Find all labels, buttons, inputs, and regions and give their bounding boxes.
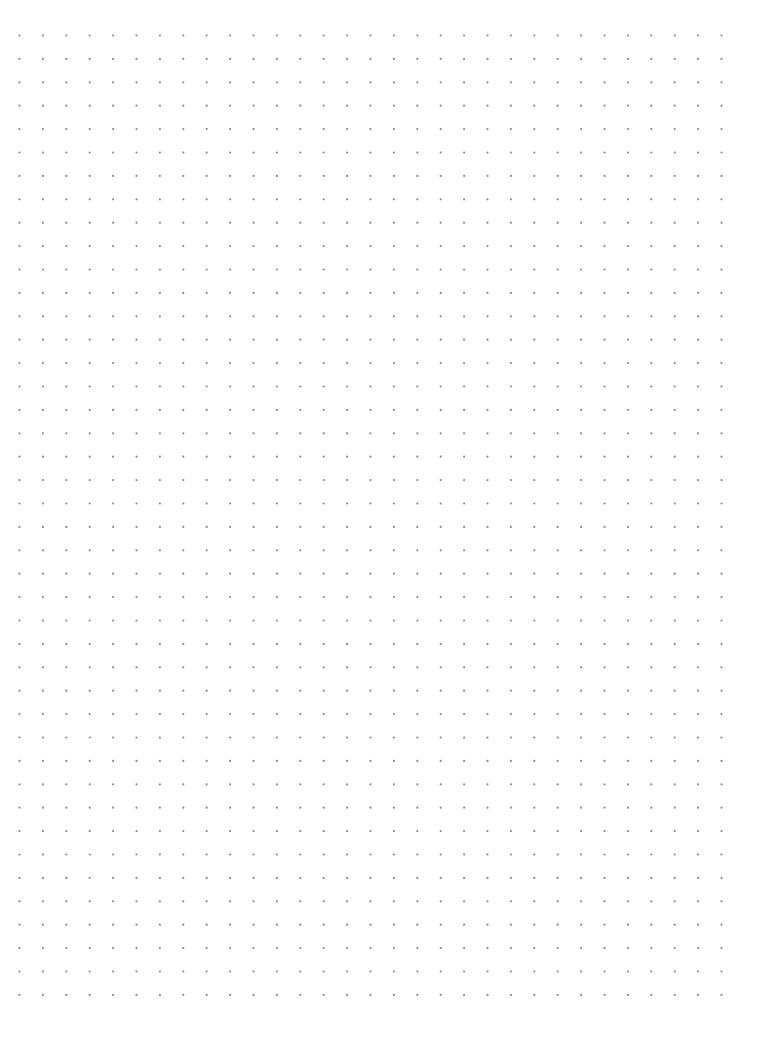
grid-dot bbox=[720, 151, 722, 153]
grid-dot bbox=[182, 643, 184, 645]
grid-dot bbox=[65, 128, 67, 130]
grid-dot bbox=[276, 619, 278, 621]
grid-dot bbox=[323, 362, 325, 364]
grid-dot bbox=[206, 339, 208, 341]
grid-dot bbox=[323, 573, 325, 575]
grid-dot bbox=[650, 292, 652, 294]
grid-dot bbox=[299, 151, 301, 153]
grid-dot bbox=[42, 549, 44, 551]
grid-dot bbox=[486, 900, 488, 902]
grid-dot bbox=[627, 198, 629, 200]
grid-dot bbox=[603, 526, 605, 528]
grid-dot bbox=[603, 58, 605, 60]
grid-dot bbox=[674, 385, 676, 387]
grid-dot bbox=[393, 409, 395, 411]
grid-dot bbox=[159, 222, 161, 224]
grid-dot bbox=[112, 128, 114, 130]
grid-dot bbox=[440, 198, 442, 200]
grid-dot bbox=[416, 105, 418, 107]
grid-dot bbox=[557, 268, 559, 270]
grid-dot bbox=[720, 783, 722, 785]
grid-dot bbox=[89, 970, 91, 972]
grid-dot bbox=[206, 619, 208, 621]
grid-dot bbox=[557, 456, 559, 458]
grid-dot bbox=[440, 502, 442, 504]
grid-dot bbox=[299, 690, 301, 692]
grid-dot bbox=[580, 105, 582, 107]
grid-dot bbox=[18, 81, 20, 83]
grid-dot bbox=[697, 713, 699, 715]
grid-dot bbox=[627, 713, 629, 715]
grid-dot bbox=[112, 736, 114, 738]
grid-dot bbox=[89, 339, 91, 341]
grid-dot bbox=[206, 292, 208, 294]
grid-dot bbox=[369, 245, 371, 247]
grid-dot bbox=[533, 479, 535, 481]
grid-dot bbox=[369, 198, 371, 200]
grid-dot bbox=[159, 385, 161, 387]
grid-dot bbox=[346, 222, 348, 224]
grid-dot bbox=[557, 994, 559, 996]
grid-dot bbox=[650, 222, 652, 224]
grid-dot bbox=[89, 807, 91, 809]
grid-dot bbox=[42, 830, 44, 832]
grid-dot bbox=[463, 736, 465, 738]
grid-dot bbox=[299, 619, 301, 621]
grid-dot bbox=[89, 573, 91, 575]
grid-dot bbox=[510, 970, 512, 972]
grid-dot bbox=[580, 526, 582, 528]
grid-dot bbox=[229, 549, 231, 551]
grid-dot bbox=[580, 783, 582, 785]
grid-dot bbox=[650, 315, 652, 317]
grid-dot bbox=[369, 58, 371, 60]
grid-dot bbox=[463, 502, 465, 504]
grid-dot bbox=[486, 877, 488, 879]
grid-dot bbox=[650, 783, 652, 785]
grid-dot bbox=[135, 81, 137, 83]
grid-dot bbox=[674, 34, 676, 36]
grid-dot bbox=[18, 783, 20, 785]
grid-dot bbox=[65, 830, 67, 832]
grid-dot bbox=[720, 362, 722, 364]
grid-dot bbox=[510, 128, 512, 130]
grid-dot bbox=[299, 479, 301, 481]
grid-dot bbox=[89, 502, 91, 504]
grid-dot bbox=[42, 596, 44, 598]
grid-dot bbox=[276, 736, 278, 738]
grid-dot bbox=[229, 643, 231, 645]
grid-dot bbox=[229, 315, 231, 317]
grid-dot bbox=[252, 409, 254, 411]
grid-dot bbox=[463, 385, 465, 387]
grid-dot bbox=[720, 502, 722, 504]
grid-dot bbox=[323, 853, 325, 855]
grid-dot bbox=[18, 994, 20, 996]
grid-dot bbox=[627, 690, 629, 692]
grid-dot bbox=[42, 924, 44, 926]
grid-dot bbox=[650, 362, 652, 364]
grid-dot bbox=[18, 385, 20, 387]
grid-dot bbox=[580, 362, 582, 364]
grid-dot bbox=[627, 994, 629, 996]
grid-dot bbox=[182, 34, 184, 36]
grid-dot bbox=[697, 760, 699, 762]
grid-dot bbox=[206, 198, 208, 200]
grid-dot bbox=[393, 268, 395, 270]
grid-dot bbox=[276, 807, 278, 809]
grid-dot bbox=[89, 643, 91, 645]
grid-dot bbox=[533, 643, 535, 645]
grid-dot bbox=[486, 807, 488, 809]
grid-dot bbox=[346, 198, 348, 200]
grid-dot bbox=[557, 502, 559, 504]
grid-dot bbox=[65, 245, 67, 247]
grid-dot bbox=[627, 853, 629, 855]
grid-dot bbox=[182, 385, 184, 387]
grid-dot bbox=[627, 666, 629, 668]
grid-dot bbox=[346, 432, 348, 434]
grid-dot bbox=[393, 151, 395, 153]
grid-dot bbox=[557, 783, 559, 785]
grid-dot bbox=[393, 807, 395, 809]
grid-dot bbox=[720, 877, 722, 879]
grid-dot bbox=[557, 549, 559, 551]
grid-dot bbox=[346, 315, 348, 317]
grid-dot bbox=[135, 128, 137, 130]
